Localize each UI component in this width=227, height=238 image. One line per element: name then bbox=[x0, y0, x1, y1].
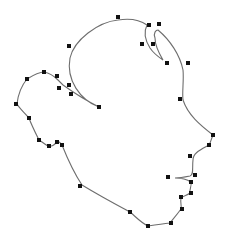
control-handle[interactable] bbox=[116, 15, 120, 19]
control-handle[interactable] bbox=[189, 191, 193, 195]
control-handle[interactable] bbox=[169, 221, 173, 225]
head-profile-outline[interactable] bbox=[17, 19, 213, 226]
control-handle[interactable] bbox=[207, 143, 211, 147]
control-handle[interactable] bbox=[47, 144, 51, 148]
control-handle[interactable] bbox=[69, 92, 73, 96]
control-handle[interactable] bbox=[146, 224, 150, 228]
control-handle[interactable] bbox=[157, 22, 161, 26]
control-handle[interactable] bbox=[60, 143, 64, 147]
control-handle[interactable] bbox=[57, 86, 61, 90]
control-handle[interactable] bbox=[178, 97, 182, 101]
outline-canvas[interactable] bbox=[0, 0, 227, 238]
control-handle[interactable] bbox=[180, 207, 184, 211]
control-handle[interactable] bbox=[140, 42, 144, 46]
control-handle[interactable] bbox=[78, 184, 82, 188]
control-handle[interactable] bbox=[27, 116, 31, 120]
control-handle[interactable] bbox=[193, 173, 197, 177]
control-handle[interactable] bbox=[188, 154, 192, 158]
control-handle[interactable] bbox=[166, 175, 170, 179]
control-handle[interactable] bbox=[186, 61, 190, 65]
control-handle[interactable] bbox=[97, 105, 101, 109]
control-handle[interactable] bbox=[147, 23, 151, 27]
control-handle[interactable] bbox=[179, 195, 183, 199]
control-handle[interactable] bbox=[67, 83, 71, 87]
control-handle[interactable] bbox=[151, 42, 155, 46]
control-handle[interactable] bbox=[67, 44, 71, 48]
control-handle[interactable] bbox=[55, 74, 59, 78]
control-handle[interactable] bbox=[165, 61, 169, 65]
control-handle[interactable] bbox=[128, 210, 132, 214]
control-handle[interactable] bbox=[14, 102, 18, 106]
control-handle[interactable] bbox=[42, 70, 46, 74]
control-handle[interactable] bbox=[211, 133, 215, 137]
control-handle[interactable] bbox=[55, 140, 59, 144]
control-handle[interactable] bbox=[37, 138, 41, 142]
control-handle[interactable] bbox=[25, 77, 29, 81]
control-handle[interactable] bbox=[189, 180, 193, 184]
